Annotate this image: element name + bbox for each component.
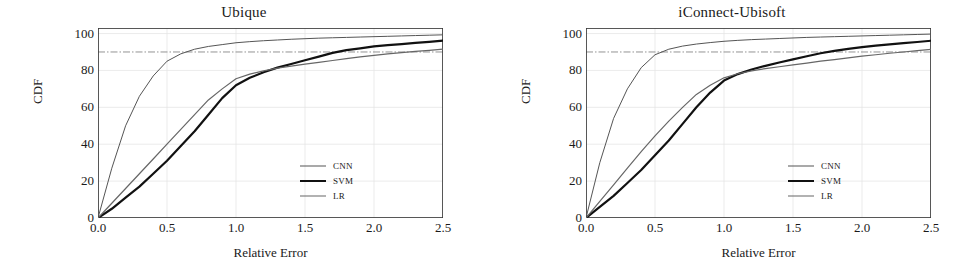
legend-line-icon — [788, 176, 814, 186]
y-tick-label: 80 — [50, 62, 94, 78]
y-tick-label: 60 — [538, 99, 582, 115]
y-tick-label: 60 — [50, 99, 94, 115]
legend-item: LR — [300, 188, 353, 203]
x-tick-label: 1.5 — [785, 220, 801, 236]
y-axis-label: CDF — [518, 79, 534, 104]
chart-panel-left: Ubique CDF 020406080100 0.00.51.01.52.02… — [0, 0, 488, 270]
x-tick-label: 1.5 — [297, 220, 313, 236]
legend-label: SVM — [333, 176, 353, 186]
x-tick-label: 2.5 — [435, 220, 451, 236]
legend-line-icon — [300, 176, 326, 186]
panel-title: iConnect-Ubisoft — [488, 4, 976, 21]
y-tick-label: 0 — [50, 210, 94, 226]
y-tick-label: 20 — [50, 173, 94, 189]
y-tick-labels: 020406080100 — [46, 28, 94, 218]
x-tick-labels: 0.00.51.01.52.02.5 — [98, 220, 443, 240]
legend-line-icon — [300, 161, 326, 171]
x-tick-label: 2.0 — [854, 220, 870, 236]
legend-item: SVM — [788, 173, 841, 188]
y-tick-labels: 020406080100 — [534, 28, 582, 218]
x-tick-label: 1.0 — [716, 220, 732, 236]
legend-label: SVM — [821, 176, 841, 186]
y-tick-label: 40 — [538, 136, 582, 152]
plot-area — [98, 28, 443, 218]
legend-line-icon — [788, 191, 814, 201]
legend-item: SVM — [300, 173, 353, 188]
plot-svg — [98, 28, 443, 218]
legend: CNNSVMLR — [788, 158, 841, 203]
y-tick-label: 40 — [50, 136, 94, 152]
plot-area — [586, 28, 931, 218]
panel-title: Ubique — [0, 4, 488, 21]
x-axis-label: Relative Error — [586, 245, 931, 261]
y-tick-label: 80 — [538, 62, 582, 78]
x-tick-label: 0.0 — [578, 220, 594, 236]
y-axis-label: CDF — [30, 79, 46, 104]
cdf-figure: Ubique CDF 020406080100 0.00.51.01.52.02… — [0, 0, 976, 270]
x-axis-label: Relative Error — [98, 245, 443, 261]
y-tick-label: 100 — [538, 26, 582, 42]
x-tick-label: 0.0 — [90, 220, 106, 236]
y-tick-label: 20 — [538, 173, 582, 189]
legend-item: CNN — [788, 158, 841, 173]
legend-label: LR — [821, 191, 833, 201]
plot-svg — [586, 28, 931, 218]
legend-line-icon — [300, 191, 326, 201]
x-tick-label: 2.5 — [923, 220, 939, 236]
x-tick-label: 0.5 — [647, 220, 663, 236]
legend-line-icon — [788, 161, 814, 171]
x-tick-label: 1.0 — [228, 220, 244, 236]
legend-label: LR — [333, 191, 345, 201]
x-tick-label: 0.5 — [159, 220, 175, 236]
x-tick-label: 2.0 — [366, 220, 382, 236]
x-tick-labels: 0.00.51.01.52.02.5 — [586, 220, 931, 240]
legend-item: LR — [788, 188, 841, 203]
legend-item: CNN — [300, 158, 353, 173]
legend: CNNSVMLR — [300, 158, 353, 203]
y-tick-label: 0 — [538, 210, 582, 226]
chart-panel-right: iConnect-Ubisoft CDF 020406080100 0.00.5… — [488, 0, 976, 270]
legend-label: CNN — [333, 161, 353, 171]
legend-label: CNN — [821, 161, 841, 171]
y-tick-label: 100 — [50, 26, 94, 42]
